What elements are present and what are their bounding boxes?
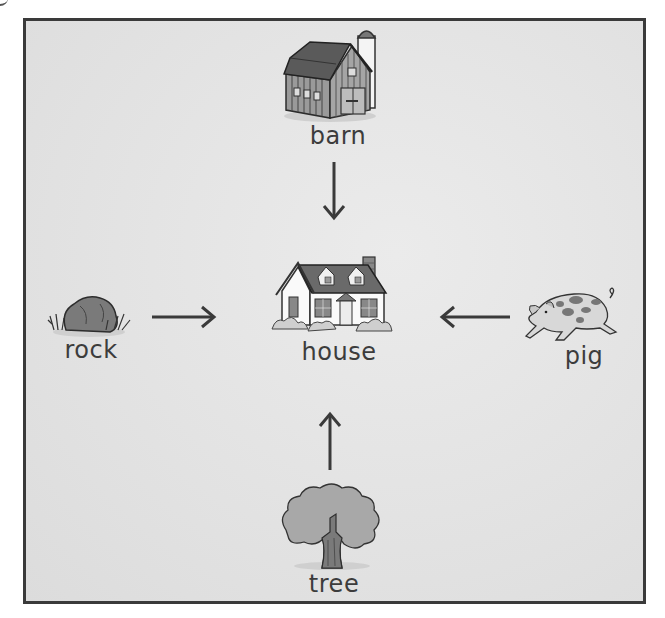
pig-label: pig (565, 342, 604, 370)
house-icon (270, 253, 395, 335)
arrow-down-icon (322, 160, 346, 222)
rock-label: rock (64, 336, 117, 364)
tree-icon (276, 480, 386, 572)
arrow-right-icon (150, 305, 218, 329)
arrow-up-icon (318, 410, 342, 472)
corner-artifact (0, 0, 8, 6)
pig-icon (524, 286, 620, 350)
barn-label: barn (310, 122, 367, 150)
arrow-left-icon (438, 305, 512, 329)
house-label: house (302, 338, 377, 366)
rock-icon (44, 290, 134, 338)
tree-label: tree (309, 570, 359, 598)
barn-icon (280, 24, 380, 124)
